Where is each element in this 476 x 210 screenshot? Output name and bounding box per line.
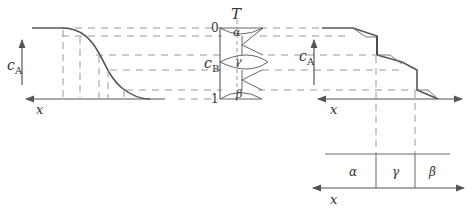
phase-strip: α γ β x <box>313 154 464 207</box>
concentration-curve <box>32 28 150 99</box>
right-concentration-plot: c A x <box>299 28 462 154</box>
diffusion-phase-diagram: c A x T 0 1 c B α γ β <box>0 0 476 210</box>
composition-label: c <box>204 55 212 71</box>
bottom-value: 1 <box>211 92 219 106</box>
y-axis-label-sub: A <box>14 65 23 76</box>
phase-alpha: α <box>233 26 241 39</box>
x-axis-label: x <box>330 192 338 207</box>
step-profile <box>322 28 438 99</box>
y-axis-label: c <box>7 57 15 73</box>
x-axis-label: x <box>36 102 44 117</box>
phase-gamma: γ <box>235 55 242 68</box>
composition-label-sub: B <box>212 63 219 74</box>
top-value: 0 <box>211 21 219 35</box>
x-axis-label: x <box>330 102 338 117</box>
y-axis-label-sub: A <box>306 56 315 67</box>
region-alpha: α <box>349 165 357 179</box>
left-concentration-plot: c A x <box>7 28 165 117</box>
region-gamma: γ <box>392 165 400 179</box>
region-beta: β <box>428 165 436 179</box>
y-axis-label: c <box>299 48 307 64</box>
phase-beta: β <box>235 88 242 101</box>
